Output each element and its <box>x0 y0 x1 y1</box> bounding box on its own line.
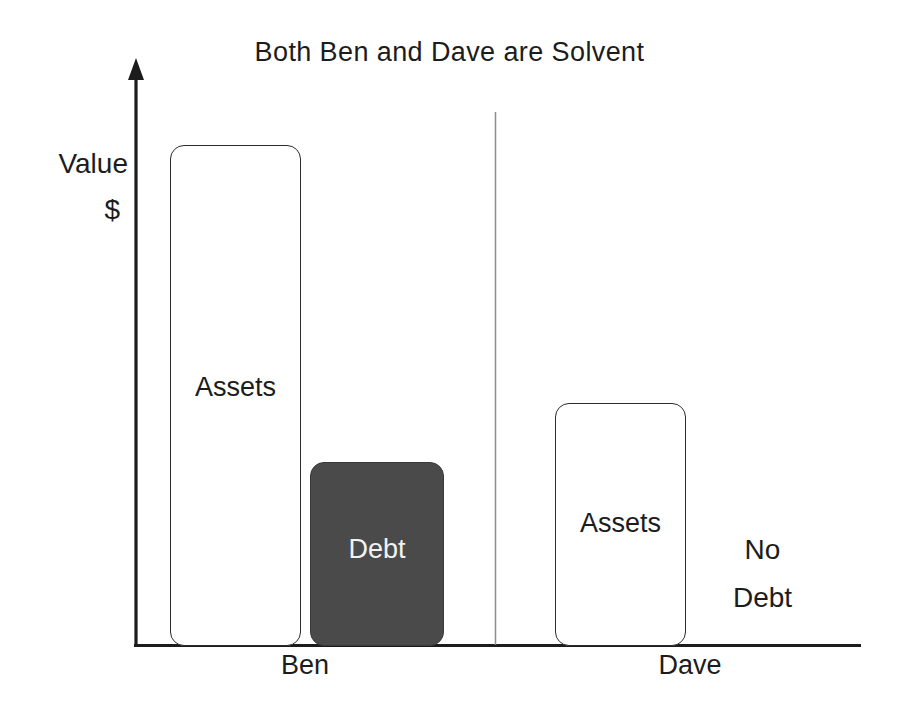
no-debt-annotation: No Debt <box>690 526 835 622</box>
chart-title: Both Ben and Dave are Solvent <box>0 37 899 68</box>
y-axis-label-currency: $ <box>8 196 120 224</box>
x-axis-label-dave: Dave <box>625 651 755 679</box>
bar-dave-assets[interactable]: Assets <box>555 403 686 646</box>
y-axis-label-value: Value <box>8 150 128 178</box>
bar-dave-assets-label: Assets <box>556 510 685 537</box>
no-debt-line-2: Debt <box>690 574 835 622</box>
chart-figure: Both Ben and Dave are Solvent Value $ As… <box>0 0 899 714</box>
bar-ben-assets-label: Assets <box>171 374 300 401</box>
bar-ben-assets[interactable]: Assets <box>170 145 301 646</box>
bar-ben-debt[interactable]: Debt <box>310 462 444 646</box>
x-axis-label-ben: Ben <box>240 651 370 679</box>
no-debt-line-1: No <box>690 526 835 574</box>
bar-ben-debt-label: Debt <box>311 536 443 563</box>
